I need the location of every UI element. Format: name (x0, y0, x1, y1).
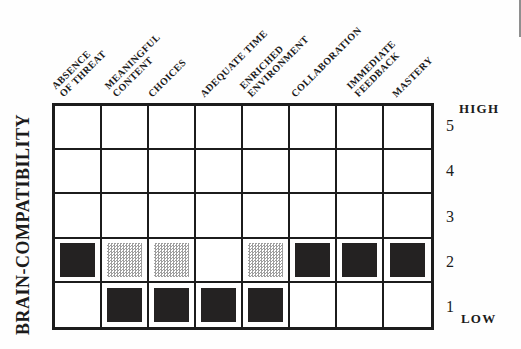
grid-cell-choices-row-2 (149, 239, 196, 283)
grid-cell-absence-of-threat-row-4 (55, 150, 102, 194)
grid-cell-enriched-environment-row-5 (243, 106, 290, 150)
grid-cell-immediate-feedback-row-2 (337, 239, 384, 283)
rating-grid (52, 103, 434, 330)
grid-cell-mastery-row-1 (384, 283, 431, 327)
grid-cell-mastery-row-5 (384, 106, 431, 150)
grid-cell-absence-of-threat-row-5 (55, 106, 102, 150)
solid-square-adequate-time-row-1 (201, 288, 236, 322)
stippled-square-meaningful-content-row-2 (107, 243, 142, 277)
scale-high-label: HIGH (459, 101, 499, 117)
row-label-3: 3 (446, 208, 464, 226)
grid-cell-absence-of-threat-row-2 (55, 239, 102, 283)
column-header-text: ABSENCEOF THREAT (50, 41, 108, 99)
grid-cell-collaboration-row-5 (290, 106, 337, 150)
grid-cell-enriched-environment-row-1 (243, 283, 290, 327)
grid-cell-mastery-row-3 (384, 194, 431, 238)
grid-cell-immediate-feedback-row-1 (337, 283, 384, 327)
stippled-square-choices-row-2 (154, 243, 189, 277)
grid-cell-choices-row-3 (149, 194, 196, 238)
y-axis-label: BRAIN-COMPATIBILITY (13, 114, 34, 335)
grid-cell-adequate-time-row-3 (196, 194, 243, 238)
grid-cell-adequate-time-row-1 (196, 283, 243, 327)
solid-square-meaningful-content-row-1 (107, 288, 142, 322)
grid-cell-absence-of-threat-row-1 (55, 283, 102, 327)
y-axis-label-box: BRAIN-COMPATIBILITY (0, 100, 46, 349)
grid-cell-collaboration-row-1 (290, 283, 337, 327)
grid-cell-meaningful-content-row-1 (102, 283, 149, 327)
grid-cell-enriched-environment-row-2 (243, 239, 290, 283)
solid-square-collaboration-row-2 (295, 243, 330, 277)
solid-square-immediate-feedback-row-2 (342, 243, 377, 277)
solid-square-choices-row-1 (154, 288, 189, 322)
grid-cell-immediate-feedback-row-3 (337, 194, 384, 238)
stippled-square-enriched-environment-row-2 (248, 243, 283, 277)
grid-cell-choices-row-1 (149, 283, 196, 327)
grid-cell-meaningful-content-row-3 (102, 194, 149, 238)
grid-cell-meaningful-content-row-2 (102, 239, 149, 283)
grid-cell-mastery-row-4 (384, 150, 431, 194)
solid-square-mastery-row-2 (390, 243, 425, 277)
grid-cell-enriched-environment-row-3 (243, 194, 290, 238)
brain-compatibility-figure: BRAIN-COMPATIBILITY ABSENCEOF THREATMEAN… (0, 0, 521, 349)
grid-cell-adequate-time-row-2 (196, 239, 243, 283)
row-label-5: 5 (446, 117, 464, 135)
grid-cell-choices-row-5 (149, 106, 196, 150)
grid-cell-enriched-environment-row-4 (243, 150, 290, 194)
solid-square-enriched-environment-row-1 (248, 288, 283, 322)
grid-cell-collaboration-row-4 (290, 150, 337, 194)
grid-cell-adequate-time-row-5 (196, 106, 243, 150)
row-label-2: 2 (446, 253, 464, 271)
scale-low-label: LOW (461, 311, 496, 327)
grid-cell-mastery-row-2 (384, 239, 431, 283)
grid-cell-collaboration-row-3 (290, 194, 337, 238)
grid-cell-meaningful-content-row-5 (102, 106, 149, 150)
grid-cell-choices-row-4 (149, 150, 196, 194)
grid-cell-meaningful-content-row-4 (102, 150, 149, 194)
grid-cell-immediate-feedback-row-4 (337, 150, 384, 194)
solid-square-absence-of-threat-row-2 (60, 243, 95, 277)
grid-cell-collaboration-row-2 (290, 239, 337, 283)
column-header-line: ENRICHED (238, 26, 303, 91)
grid-cell-adequate-time-row-4 (196, 150, 243, 194)
row-label-4: 4 (446, 162, 464, 180)
grid-cell-immediate-feedback-row-5 (337, 106, 384, 150)
grid-cell-absence-of-threat-row-3 (55, 194, 102, 238)
